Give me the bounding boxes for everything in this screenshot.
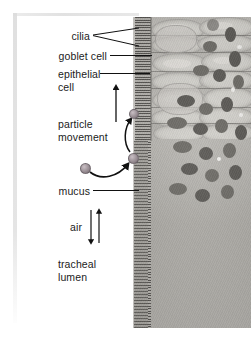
label-mucus: mucus	[18, 185, 90, 198]
label-air: air	[40, 221, 82, 234]
cell-nucleus	[221, 97, 233, 112]
cell-nucleus	[193, 123, 208, 135]
cell-nucleus	[199, 147, 213, 160]
tracheal-epithelium-figure: cilia goblet cell epithelial cell partic…	[0, 0, 251, 347]
goblet-cell-vacuole	[163, 59, 191, 68]
cell-nucleus	[215, 119, 228, 133]
cell-nucleus	[193, 65, 209, 76]
label-tracheal-lumen-line2: lumen	[58, 271, 87, 283]
label-particle-movement: particle movement	[58, 118, 128, 143]
cell-nucleus	[207, 19, 219, 31]
cell-nucleus	[221, 185, 234, 199]
label-goblet-cell-text: goblet cell	[59, 50, 107, 62]
cell-nucleus	[173, 141, 192, 153]
cell-nucleus	[229, 165, 242, 180]
particle-on-mucus-lower	[128, 153, 139, 164]
label-epithelial-cell: epithelial cell	[58, 68, 118, 93]
cilia-band-lower	[134, 141, 148, 328]
label-epithelial-cell-line1: epithelial	[58, 68, 100, 80]
label-epithelial-cell-line2: cell	[58, 81, 74, 93]
particle-airborne	[80, 163, 91, 174]
particle-on-mucus-upper	[129, 109, 139, 119]
cell-nucleus	[167, 117, 187, 129]
cell-nucleus	[233, 75, 244, 89]
label-tracheal-lumen: tracheal lumen	[58, 258, 128, 283]
cell-nucleus	[203, 41, 217, 52]
tissue-highlight	[239, 113, 243, 117]
label-particle-movement-line1: particle	[58, 118, 93, 130]
cell-nucleus	[181, 163, 198, 175]
cell-nucleus	[225, 27, 236, 42]
cell-nucleus	[177, 95, 195, 107]
cell-nucleus	[195, 189, 210, 202]
label-goblet-cell: goblet cell	[18, 50, 107, 63]
cell-nucleus	[199, 103, 213, 115]
micrograph-plate	[133, 17, 251, 328]
tissue-highlight	[217, 157, 221, 161]
label-tracheal-lumen-line1: tracheal	[58, 258, 96, 270]
panel-frame-left-edge	[13, 13, 17, 323]
curved-arrow-particle-to-mucus	[90, 164, 128, 177]
cell-nucleus	[169, 183, 187, 195]
cell-nucleus	[235, 125, 247, 140]
cell-nucleus	[223, 143, 236, 158]
tissue-highlight	[231, 87, 235, 92]
label-cilia-text: cilia	[71, 30, 90, 42]
cell-nucleus	[213, 69, 226, 82]
cell-nucleus	[229, 51, 241, 67]
label-cilia: cilia	[18, 30, 90, 43]
cell-nucleus	[205, 169, 219, 182]
label-air-text: air	[70, 221, 82, 233]
label-particle-movement-line2: movement	[58, 131, 108, 143]
tissue-highlight	[237, 45, 242, 49]
panel-frame-top-edge	[13, 13, 139, 16]
gland-acinus	[155, 25, 197, 53]
apical-cell-border	[150, 17, 152, 141]
label-mucus-text: mucus	[59, 185, 90, 197]
